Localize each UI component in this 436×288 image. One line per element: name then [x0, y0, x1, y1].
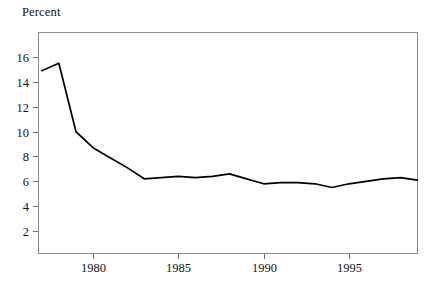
y-tick-label: 4 [23, 200, 30, 214]
x-axis-ticks [94, 254, 350, 259]
y-tick-label: 12 [17, 101, 30, 115]
y-tick-label: 6 [23, 175, 29, 189]
y-tick-label: 14 [17, 76, 30, 90]
y-tick-label: 2 [23, 225, 29, 239]
x-axis-tick-labels: 1980198519901995 [81, 261, 362, 275]
x-tick-label: 1985 [166, 261, 191, 275]
y-tick-label: 10 [17, 126, 30, 140]
y-tick-label: 8 [23, 150, 29, 164]
percent-series-line [42, 63, 418, 187]
x-tick-label: 1980 [81, 261, 106, 275]
plot-frame [39, 33, 418, 254]
x-tick-label: 1990 [252, 261, 277, 275]
x-tick-label: 1995 [337, 261, 362, 275]
y-tick-label: 16 [17, 51, 30, 65]
y-axis-tick-labels: 246810121416 [17, 51, 30, 239]
chart-figure: Percent 246810121416 1980198519901995 [0, 0, 436, 288]
y-axis-ticks [33, 58, 38, 232]
plot-area: 246810121416 1980198519901995 [0, 0, 436, 288]
